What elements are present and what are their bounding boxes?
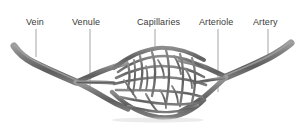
capillary-arc-4: [116, 90, 202, 97]
capillary-link-3: [152, 52, 155, 96]
label-capillaries: Capillaries: [137, 17, 180, 28]
vessel-network: [14, 42, 291, 117]
label-arteriole: Arteriole: [199, 17, 233, 28]
label-vein: Vein: [26, 17, 44, 28]
venule-lower: [76, 82, 128, 109]
label-artery: Artery: [253, 17, 278, 28]
venule-middle: [78, 82, 114, 83]
capillary-link-15: [160, 90, 166, 108]
capillary-link-1: [128, 64, 130, 88]
capillary-link-2: [140, 56, 142, 90]
capillary-link-11: [172, 86, 178, 104]
bed-shadow: [112, 118, 204, 123]
capillary-arc-5: [120, 97, 200, 104]
label-venule: Venule: [72, 17, 100, 28]
capillary-link-10: [158, 60, 164, 78]
